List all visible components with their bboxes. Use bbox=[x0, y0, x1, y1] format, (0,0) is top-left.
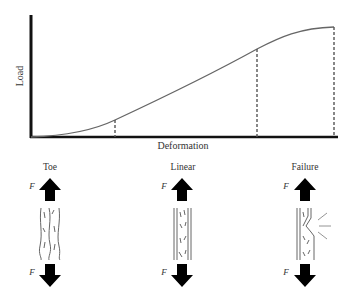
force-bottom-label: F bbox=[282, 267, 289, 277]
arrow-down-icon bbox=[39, 264, 61, 287]
arrow-down-icon bbox=[294, 264, 316, 287]
chart: Load Deformation bbox=[14, 15, 338, 151]
stage-toe: Toe F F bbox=[28, 162, 61, 287]
y-axis-label: Load bbox=[14, 66, 25, 87]
stage-linear-label: Linear bbox=[171, 162, 197, 172]
stage-linear: Linear F F bbox=[160, 162, 196, 287]
force-top-label: F bbox=[160, 181, 167, 191]
arrow-down-icon bbox=[171, 264, 193, 287]
arrow-up-icon bbox=[39, 178, 61, 201]
force-bottom-label: F bbox=[28, 267, 35, 277]
arrow-up-icon bbox=[294, 178, 316, 201]
ruptured-fiber-bundle bbox=[297, 208, 314, 260]
force-top-label: F bbox=[282, 181, 289, 191]
x-axis-label: Deformation bbox=[157, 140, 208, 151]
load-curve bbox=[31, 27, 334, 137]
force-top-label: F bbox=[28, 181, 35, 191]
arrow-up-icon bbox=[171, 178, 193, 201]
stage-failure: Failure F F bbox=[282, 162, 331, 287]
stage-toe-label: Toe bbox=[43, 162, 57, 172]
rupture-burst-icon bbox=[318, 213, 331, 239]
crimped-fiber-bundle bbox=[39, 208, 60, 260]
stage-failure-label: Failure bbox=[292, 162, 319, 172]
load-deformation-diagram: Load Deformation Toe F F Linear F bbox=[0, 0, 351, 298]
force-bottom-label: F bbox=[160, 267, 167, 277]
straight-fiber-bundle bbox=[174, 208, 191, 260]
